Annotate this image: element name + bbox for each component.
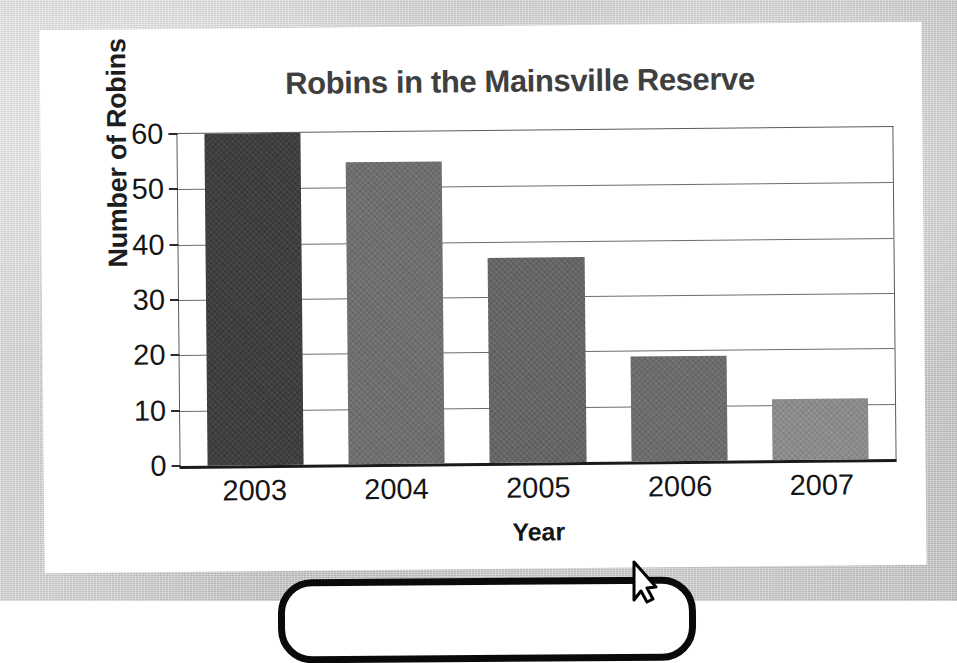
bar-slot [747, 127, 892, 460]
y-tick-label: 10 [134, 394, 167, 427]
x-axis-tick-labels: 20032004200520062007 [180, 468, 897, 508]
y-tick-label: 0 [150, 450, 166, 483]
y-tick-label: 20 [133, 339, 166, 372]
y-tick-mark [171, 354, 180, 356]
bar [204, 133, 303, 466]
y-tick-label: 50 [132, 173, 165, 206]
y-tick-mark [169, 244, 178, 246]
bar-slot [323, 131, 468, 464]
bar [346, 162, 445, 464]
x-tick-label: 2004 [325, 472, 467, 506]
bar-slot [606, 128, 751, 461]
chart-card: Robins in the Mainsville Reserve Number … [39, 22, 926, 573]
cursor-arrow-icon [632, 560, 658, 604]
x-tick-label: 2005 [467, 471, 609, 505]
y-axis-title: Number of Robins [101, 0, 135, 318]
y-tick-mark [168, 133, 177, 135]
x-axis-title: Year [180, 514, 897, 550]
y-tick-mark [169, 188, 178, 190]
bar-slot [181, 133, 326, 466]
y-tick-label: 30 [133, 284, 166, 317]
x-tick-label: 2007 [751, 468, 893, 502]
y-tick-mark [171, 410, 180, 412]
y-tick-label: 40 [132, 228, 165, 261]
y-tick-mark [170, 299, 179, 301]
bar [630, 356, 727, 462]
bar-series [177, 127, 895, 466]
bar-slot [464, 130, 609, 463]
chart-title: Robins in the Mainsville Reserve [40, 60, 922, 104]
x-tick-label: 2006 [609, 469, 751, 503]
x-tick-label: 2003 [184, 474, 326, 508]
y-tick-label: 60 [131, 118, 164, 151]
chart-figure: Robins in the Mainsville Reserve Number … [39, 22, 926, 573]
plot-area: 0102030405060 [176, 126, 896, 469]
bar [772, 398, 869, 460]
bar [488, 257, 586, 463]
y-tick-mark [172, 465, 181, 467]
